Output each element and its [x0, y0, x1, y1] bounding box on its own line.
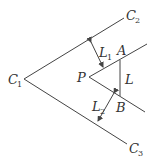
label-c1: C 1: [8, 72, 22, 89]
svg-text:2: 2: [135, 16, 140, 25]
ray-c1-c3: [24, 79, 127, 144]
ray-c1-c2: [24, 18, 124, 79]
label-l1: L 1: [98, 45, 112, 62]
label-b: B: [115, 100, 126, 115]
label-l: L: [124, 72, 134, 87]
geometry-diagram: C 1 C 2 C 3 L 1 L 2 P A B L: [0, 0, 161, 167]
svg-text:1: 1: [107, 53, 112, 62]
label-a: A: [116, 43, 126, 58]
svg-text:3: 3: [138, 149, 143, 158]
label-c3: C 3: [129, 141, 143, 158]
svg-text:2: 2: [100, 107, 105, 116]
svg-text:1: 1: [17, 80, 22, 89]
label-p: P: [76, 70, 86, 85]
label-l2: L 2: [91, 99, 105, 116]
label-c2: C 2: [126, 8, 140, 25]
